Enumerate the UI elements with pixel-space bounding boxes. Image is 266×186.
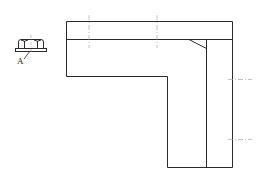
part-outline — [67, 22, 233, 168]
drawing-canvas — [0, 0, 266, 186]
chamfer-line — [189, 40, 207, 49]
l-bracket-part — [67, 22, 233, 168]
centerlines — [89, 15, 252, 140]
detail-callout-label: A — [17, 57, 24, 66]
